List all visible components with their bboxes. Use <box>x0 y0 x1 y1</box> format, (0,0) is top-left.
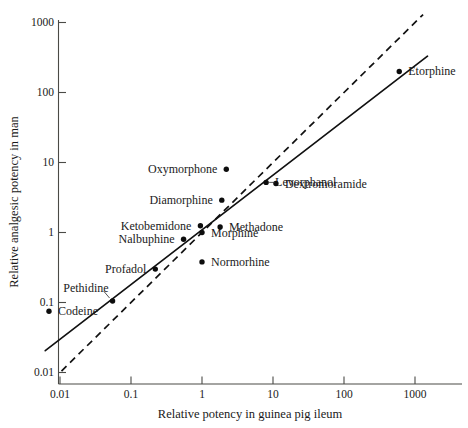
point-marker <box>110 298 115 303</box>
x-tick-label-1: 1 <box>199 388 205 400</box>
regression-fit-line <box>45 56 427 350</box>
x-axis-ticks <box>60 377 415 385</box>
data-point-etorphine: Etorphine <box>397 64 456 78</box>
x-axis-title: Relative potency in guinea pig ileum <box>158 407 343 421</box>
point-marker <box>273 181 278 186</box>
scatter-plot: 1000 100 10 1 0.1 0.01 0.01 0.1 1 10 100… <box>0 0 468 428</box>
point-marker <box>397 69 402 74</box>
data-point-oxymorphone: Oxymorphone <box>148 162 229 176</box>
x-tick-label-100: 100 <box>335 388 353 400</box>
point-marker <box>46 309 51 314</box>
y-tick-label-0.01: 0.01 <box>34 366 54 378</box>
x-tick-label-1000: 1000 <box>404 388 427 400</box>
point-marker <box>217 224 222 229</box>
x-axis-tick-labels: 0.01 0.1 1 10 100 1000 <box>50 388 427 400</box>
line-of-identity <box>62 15 424 372</box>
point-label: Methadone <box>229 220 283 234</box>
point-label: Codeine <box>58 304 98 318</box>
point-label: Dextromoramide <box>285 177 367 191</box>
point-marker <box>224 167 229 172</box>
point-label: Nalbuphine <box>119 232 175 246</box>
point-marker <box>219 197 224 202</box>
data-point-nalbuphine: Nalbuphine <box>119 232 187 246</box>
data-point-normorhine: Normorhine <box>199 255 269 269</box>
point-marker <box>199 259 204 264</box>
point-marker <box>199 230 204 235</box>
point-label: Etorphine <box>408 64 455 78</box>
point-label: Diamorphine <box>149 193 212 207</box>
point-marker <box>263 180 268 185</box>
data-point-diamorphine: Diamorphine <box>149 193 224 207</box>
point-label: Pethidine <box>63 281 108 295</box>
y-axis-ticks <box>59 23 67 373</box>
trend-lines <box>45 15 427 372</box>
y-tick-label-1000: 1000 <box>31 16 54 28</box>
point-marker <box>198 223 203 228</box>
x-tick-label-10: 10 <box>267 388 279 400</box>
y-axis-title: Relative analgesic potency in man <box>7 116 21 288</box>
point-marker <box>153 266 158 271</box>
point-label: Ketobemidone <box>121 219 192 233</box>
data-point-codeine: Codeine <box>46 304 98 318</box>
data-point-pethidine: Pethidine <box>63 281 115 304</box>
x-tick-label-0.1: 0.1 <box>124 388 139 400</box>
point-label: Oxymorphone <box>148 162 217 176</box>
y-tick-label-0.1: 0.1 <box>40 296 55 308</box>
y-tick-label-1: 1 <box>48 226 54 238</box>
y-tick-label-10: 10 <box>43 156 55 168</box>
y-tick-label-100: 100 <box>37 86 55 98</box>
point-label: Profadol <box>105 262 147 276</box>
figure-container: 1000 100 10 1 0.1 0.01 0.01 0.1 1 10 100… <box>0 0 468 428</box>
x-tick-label-0.01: 0.01 <box>50 388 70 400</box>
point-marker <box>181 237 186 242</box>
axes <box>59 20 463 384</box>
point-label: Normorhine <box>211 255 270 269</box>
data-point-ketobemidone: Ketobemidone <box>121 219 203 233</box>
y-axis-tick-labels: 1000 100 10 1 0.1 0.01 <box>31 16 54 378</box>
data-point-dextromoramide: Dextromoramide <box>273 177 367 191</box>
